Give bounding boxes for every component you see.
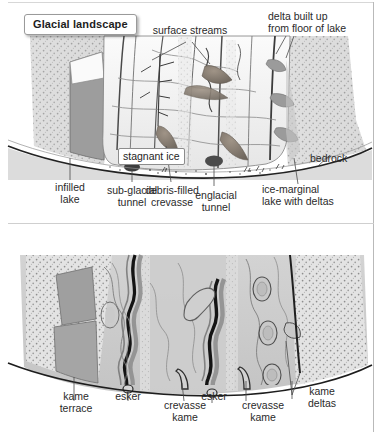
label-kame-deltas-line1: kame	[294, 385, 350, 397]
label-surface-streams: surface streams	[142, 24, 238, 36]
label-crevasse-kame-right-line1: crevasse	[232, 399, 294, 411]
kame-terrace-upper	[56, 267, 96, 325]
label-ice-marginal-lake-line1: ice-marginal	[262, 183, 374, 195]
panel-glacial-landscape: Glacial landscape surface streams delta …	[0, 0, 390, 223]
label-ice-marginal-lake: ice-marginal lake with deltas	[262, 183, 374, 207]
label-delta-built-up: delta built up from floor of lake	[268, 10, 384, 34]
panel-postglacial-landscape: Postglacial landscape kame terrace esker…	[0, 223, 390, 434]
glacial-landscape-figure: Glacial landscape surface streams delta …	[0, 0, 390, 434]
label-kame-deltas-line2: deltas	[294, 397, 350, 409]
label-kame-terrace-line2: terrace	[48, 402, 104, 414]
label-infilled-lake: infilled lake	[44, 181, 96, 205]
label-esker-right: esker	[192, 390, 236, 402]
label-infilled-lake-line1: infilled	[44, 181, 96, 193]
label-esker-left: esker	[106, 390, 150, 402]
label-ice-marginal-lake-line2: lake with deltas	[262, 195, 374, 207]
label-infilled-lake-line2: lake	[44, 193, 96, 205]
label-englacial-tunnel: englacial tunnel	[187, 189, 245, 213]
label-englacial-tunnel-line1: englacial	[187, 189, 245, 201]
label-crevasse-kame-right: crevasse kame	[232, 399, 294, 423]
label-kame-terrace-line1: kame	[48, 390, 104, 402]
label-bedrock: bedrock	[310, 152, 370, 164]
right-hillside-post	[294, 255, 368, 385]
label-stagnant-ice: stagnant ice	[118, 148, 185, 165]
label-englacial-tunnel-line2: tunnel	[187, 201, 245, 213]
label-crevasse-kame-left-line2: kame	[154, 411, 216, 423]
englacial-tunnel-opening	[205, 156, 223, 167]
label-crevasse-kame-left: crevasse kame	[154, 399, 216, 423]
label-crevasse-kame-right-line2: kame	[232, 411, 294, 423]
panel-title-glacial: Glacial landscape	[24, 14, 137, 35]
label-delta-built-up-line2: from floor of lake	[268, 22, 384, 34]
label-delta-built-up-line1: delta built up	[268, 10, 384, 22]
label-kame-deltas: kame deltas	[294, 385, 350, 409]
label-kame-terrace: kame terrace	[48, 390, 104, 414]
